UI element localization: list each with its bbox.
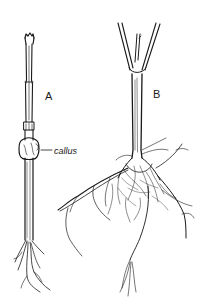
botanical-illustration: A B callus	[0, 0, 204, 308]
label-a: A	[45, 90, 52, 102]
cutting-a	[14, 33, 52, 292]
cutting-b	[58, 23, 194, 296]
label-b: B	[153, 88, 160, 100]
cuttings-drawing	[0, 0, 204, 308]
label-callus: callus	[54, 146, 77, 156]
